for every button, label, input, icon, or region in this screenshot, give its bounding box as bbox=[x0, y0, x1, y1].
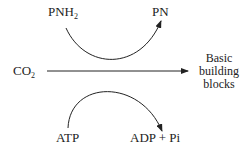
product-adp-pi: ADP + Pi bbox=[130, 131, 180, 144]
top-curved-arrow bbox=[66, 21, 161, 59]
reactant-atp: ATP bbox=[56, 131, 79, 144]
bottom-curved-arrow bbox=[68, 92, 162, 131]
bbb-line-3: blocks bbox=[196, 78, 242, 91]
substrate-co2: CO2 bbox=[13, 64, 35, 77]
reactant-pnh2: PNH2 bbox=[48, 5, 78, 18]
product-pn: PN bbox=[152, 5, 169, 18]
basic-building-blocks: Basic building blocks bbox=[196, 52, 242, 91]
